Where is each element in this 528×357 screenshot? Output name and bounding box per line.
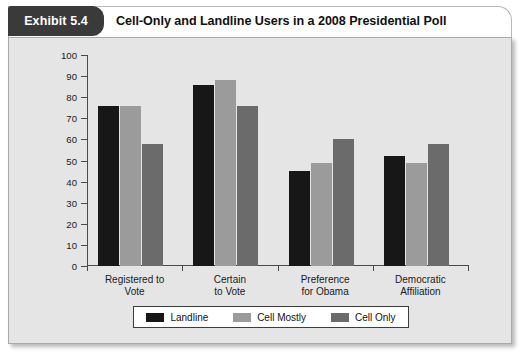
y-axis-tick-label-wrap: 10 bbox=[49, 245, 77, 256]
legend-label: Cell Mostly bbox=[257, 312, 306, 323]
y-axis-tick-label-wrap: 90 bbox=[49, 76, 77, 87]
bar bbox=[384, 156, 405, 266]
y-axis-tick-label: 90 bbox=[49, 71, 77, 82]
y-axis-tick-label: 100 bbox=[49, 50, 77, 61]
bar bbox=[237, 106, 258, 266]
y-axis-tick-label-wrap: 60 bbox=[49, 139, 77, 150]
bar bbox=[120, 106, 141, 266]
y-axis-tick-label-wrap: 0 bbox=[49, 266, 77, 277]
y-axis-tick-label: 60 bbox=[49, 134, 77, 145]
legend-swatch bbox=[233, 313, 251, 322]
bar bbox=[193, 85, 214, 266]
y-axis-tick-label-wrap: 100 bbox=[49, 55, 77, 66]
y-axis-tick-label: 40 bbox=[49, 176, 77, 187]
x-axis-category-label: DemocraticAffiliation bbox=[373, 274, 468, 297]
legend-item: Landline bbox=[146, 312, 208, 323]
x-axis-category-label-line: for Obama bbox=[278, 286, 373, 298]
x-axis-category-label-line: Preference bbox=[278, 274, 373, 286]
legend-swatch bbox=[331, 313, 349, 322]
y-axis-tick-label-wrap: 30 bbox=[49, 203, 77, 214]
bar bbox=[98, 106, 119, 266]
x-axis-category-label: Preferencefor Obama bbox=[278, 274, 373, 297]
x-axis-category-label-line: Vote bbox=[87, 286, 182, 298]
bar bbox=[289, 171, 310, 266]
bar bbox=[142, 144, 163, 266]
bar-series-area bbox=[87, 55, 468, 266]
y-axis-tick-label: 20 bbox=[49, 218, 77, 229]
legend-item: Cell Mostly bbox=[233, 312, 306, 323]
legend-item: Cell Only bbox=[331, 312, 396, 323]
y-axis-tick-label-wrap: 80 bbox=[49, 97, 77, 108]
legend-label: Landline bbox=[170, 312, 208, 323]
chart-legend: LandlineCell MostlyCell Only bbox=[133, 306, 409, 328]
y-axis-tick-label-wrap: 40 bbox=[49, 182, 77, 193]
x-axis-category-label: Certainto Vote bbox=[182, 274, 277, 297]
chart-panel: 1009080706050403020100 Registered toVote… bbox=[8, 37, 512, 344]
bar bbox=[428, 144, 449, 266]
y-axis-tick-label: 30 bbox=[49, 197, 77, 208]
x-tick-mark bbox=[468, 265, 469, 271]
bar bbox=[406, 163, 427, 266]
y-axis-tick-label: 0 bbox=[49, 261, 77, 272]
exhibit-badge: Exhibit 5.4 bbox=[8, 6, 104, 36]
page-title: Cell-Only and Landline Users in a 2008 P… bbox=[116, 6, 446, 36]
y-axis-tick-label: 70 bbox=[49, 113, 77, 124]
x-axis-category-label-line: to Vote bbox=[182, 286, 277, 298]
bar bbox=[215, 80, 236, 266]
x-axis-category-label-line: Affiliation bbox=[373, 286, 468, 298]
x-axis-category-label-line: Registered to bbox=[87, 274, 182, 286]
exhibit-container: Exhibit 5.4 Cell-Only and Landline Users… bbox=[0, 0, 528, 357]
y-axis-tick-label: 80 bbox=[49, 92, 77, 103]
y-axis-tick-label-wrap: 50 bbox=[49, 161, 77, 172]
x-axis-category-label: Registered toVote bbox=[87, 274, 182, 297]
bar bbox=[333, 139, 354, 266]
y-axis-tick-label: 10 bbox=[49, 239, 77, 250]
x-axis-category-label-line: Certain bbox=[182, 274, 277, 286]
legend-label: Cell Only bbox=[355, 312, 396, 323]
bar bbox=[311, 163, 332, 266]
bar-chart: 1009080706050403020100 Registered toVote… bbox=[9, 38, 513, 345]
legend-swatch bbox=[146, 313, 164, 322]
y-axis-tick-label-wrap: 20 bbox=[49, 224, 77, 235]
y-axis-tick-label-wrap: 70 bbox=[49, 118, 77, 129]
x-axis-category-label-line: Democratic bbox=[373, 274, 468, 286]
y-axis-tick-label: 50 bbox=[49, 155, 77, 166]
